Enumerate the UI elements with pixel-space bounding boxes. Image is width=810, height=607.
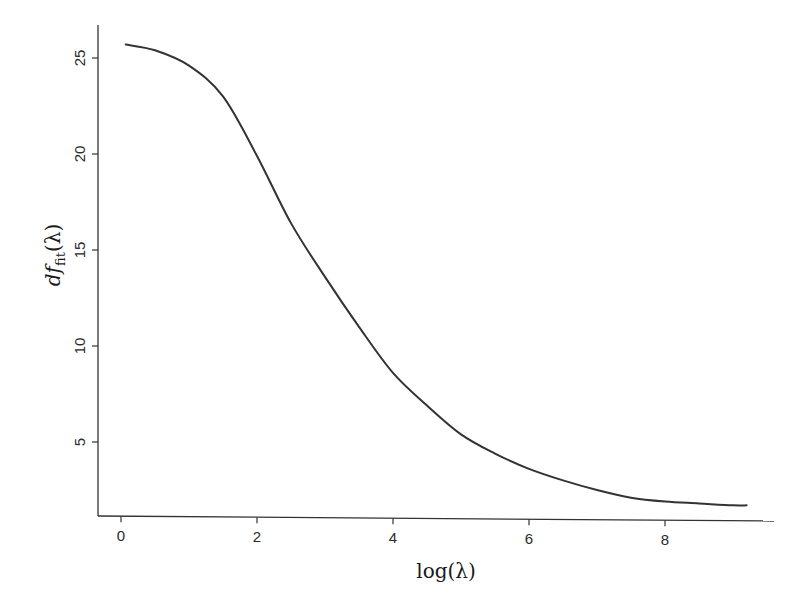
y-axis-title: dffit(λ) <box>41 224 68 286</box>
y-ticks: 510152025 <box>71 50 98 447</box>
x-tick-label: 8 <box>661 531 669 548</box>
x-tick-label: 6 <box>525 530 533 547</box>
y-tick-label: 5 <box>71 438 88 446</box>
data-line <box>126 45 747 506</box>
y-axis-title-sub: fit <box>53 251 68 266</box>
y-axis-title-arg: (λ) <box>41 224 65 252</box>
svg-text:dffit(λ): dffit(λ) <box>41 224 68 286</box>
y-tick-label: 20 <box>71 146 88 163</box>
x-axis-title: log(λ) <box>416 559 476 583</box>
y-tick-label: 15 <box>71 242 88 259</box>
x-tick-label: 4 <box>389 529 397 546</box>
y-tick-label: 25 <box>71 50 88 67</box>
x-axis-line <box>98 516 774 521</box>
x-ticks: 02468 <box>117 516 669 548</box>
line-chart: 510152025 02468 log(λ) dffit(λ) <box>0 0 810 607</box>
x-axis: 02468 <box>98 516 774 548</box>
x-tick-label: 2 <box>253 528 261 545</box>
x-tick-label: 0 <box>117 527 125 544</box>
y-axis: 510152025 <box>71 25 98 516</box>
y-tick-label: 10 <box>71 338 88 355</box>
